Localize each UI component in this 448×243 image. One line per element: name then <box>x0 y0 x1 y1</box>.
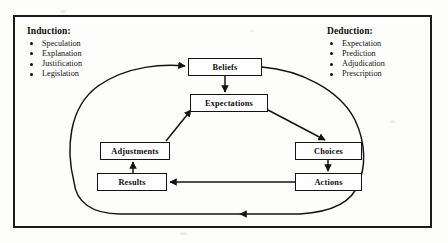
bullet-icon <box>30 42 33 45</box>
diagram-canvas: Induction: Speculation Explanation Justi… <box>0 0 448 243</box>
bullet-icon <box>330 73 333 76</box>
list-item: Prediction <box>327 49 385 59</box>
induction-title: Induction: <box>27 26 82 36</box>
list-item: Explanation <box>27 49 82 59</box>
deduction-list: Expectation Prediction Adjudication Pres… <box>327 39 385 80</box>
deduction-item-1: Prediction <box>342 49 376 58</box>
bullet-icon <box>30 52 33 55</box>
bullet-icon <box>330 52 333 55</box>
node-beliefs: Beliefs <box>188 58 262 76</box>
deduction-item-2: Adjudication <box>342 59 385 68</box>
list-item: Speculation <box>27 39 82 49</box>
list-item: Expectation <box>327 39 385 49</box>
node-choices: Choices <box>295 142 362 160</box>
scan-speck <box>390 120 395 123</box>
induction-item-0: Speculation <box>42 39 81 48</box>
bullet-icon <box>30 63 33 66</box>
scan-speck <box>250 30 254 32</box>
deduction-panel: Deduction: Expectation Prediction Adjudi… <box>327 26 385 79</box>
bullet-icon <box>30 73 33 76</box>
node-actions: Actions <box>295 173 362 191</box>
scan-speck <box>180 232 187 235</box>
deduction-item-3: Prescription <box>342 69 382 78</box>
node-results: Results <box>97 173 167 191</box>
bullet-icon <box>330 63 333 66</box>
induction-item-3: Legislation <box>42 69 79 78</box>
node-expectations: Expectations <box>190 94 268 112</box>
induction-list: Speculation Explanation Justification Le… <box>27 39 82 80</box>
list-item: Prescription <box>327 69 385 79</box>
induction-panel: Induction: Speculation Explanation Justi… <box>27 26 82 79</box>
scan-speck <box>60 10 66 13</box>
list-item: Adjudication <box>327 59 385 69</box>
node-adjustments: Adjustments <box>100 142 170 160</box>
induction-item-2: Justification <box>42 59 82 68</box>
list-item: Legislation <box>27 69 82 79</box>
bullet-icon <box>330 42 333 45</box>
induction-item-1: Explanation <box>42 49 82 58</box>
list-item: Justification <box>27 59 82 69</box>
deduction-item-0: Expectation <box>342 39 381 48</box>
deduction-title: Deduction: <box>327 26 385 36</box>
